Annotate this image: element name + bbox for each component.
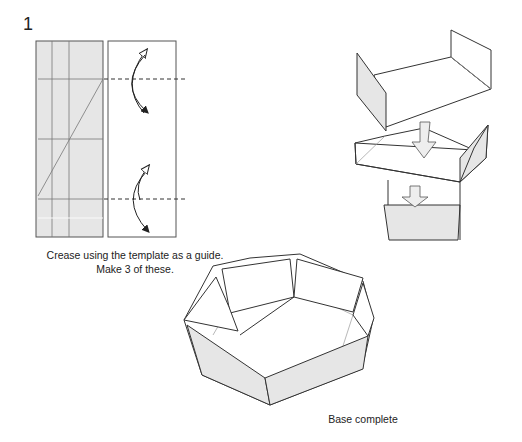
- caption-line-1: Crease using the template as a guide.: [20, 248, 250, 262]
- paper-strip: [104, 41, 187, 237]
- assembly-diagram: [355, 30, 491, 240]
- instruction-caption: Crease using the template as a guide. Ma…: [20, 248, 250, 276]
- template-strip: [36, 41, 103, 237]
- caption-line-2: Make 3 of these.: [20, 262, 250, 276]
- base-complete-caption: Base complete: [308, 412, 418, 426]
- finished-base-diagram: [184, 254, 374, 405]
- origami-diagram: [0, 0, 522, 442]
